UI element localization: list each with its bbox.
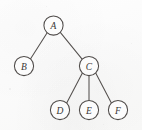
tree-diagram-figure: A B C D E F	[0, 0, 142, 130]
edge-a-b	[31, 33, 47, 59]
node-e-label: E	[85, 106, 92, 116]
node-e[interactable]: E	[79, 100, 98, 119]
node-b[interactable]: B	[14, 56, 33, 75]
node-c-label: C	[86, 62, 93, 72]
node-f[interactable]: F	[108, 100, 127, 119]
node-d[interactable]: D	[50, 100, 69, 119]
tree-diagram-canvas: A B C D E F	[0, 0, 142, 130]
node-a-label: A	[50, 21, 57, 31]
edge-group	[31, 32, 112, 103]
node-d-label: D	[56, 106, 64, 116]
edge-c-d	[67, 73, 83, 103]
edge-a-c	[60, 32, 82, 59]
node-a[interactable]: A	[44, 16, 63, 35]
node-c[interactable]: C	[79, 56, 98, 75]
node-f-label: F	[114, 106, 121, 116]
edge-c-f	[96, 73, 112, 103]
node-group: A B C D E F	[14, 16, 127, 120]
node-b-label: B	[21, 62, 27, 72]
